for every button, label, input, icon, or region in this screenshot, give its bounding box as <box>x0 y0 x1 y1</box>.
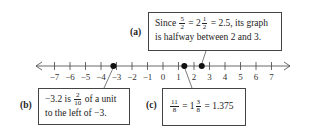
svg-text:−2: −2 <box>127 72 137 82</box>
svg-text:1: 1 <box>176 72 181 82</box>
callout-a-label: (a) <box>130 27 141 37</box>
callout-b: −3.2 is 210 of a unit to the left of −3. <box>38 88 130 125</box>
svg-text:4: 4 <box>223 72 228 82</box>
svg-text:7: 7 <box>269 72 274 82</box>
svg-text:−4: −4 <box>96 72 106 82</box>
svg-text:−6: −6 <box>65 72 75 82</box>
svg-text:3: 3 <box>207 72 212 82</box>
svg-text:−5: −5 <box>81 72 91 82</box>
tick-marks: −7−6−5−4−3−2−101234567 <box>50 62 275 82</box>
svg-text:6: 6 <box>254 72 259 82</box>
callout-b-label: (b) <box>20 100 32 110</box>
callout-c: 118 = 138 = 1.375 <box>162 88 246 126</box>
svg-text:5: 5 <box>238 72 243 82</box>
svg-text:−7: −7 <box>50 72 60 82</box>
callout-a: Since 52 = 212 = 2.5, its graph is halfw… <box>148 12 282 51</box>
svg-text:0: 0 <box>161 72 166 82</box>
svg-text:−1: −1 <box>143 72 153 82</box>
svg-text:2: 2 <box>192 72 197 82</box>
svg-text:−3: −3 <box>112 72 122 82</box>
callout-c-label: (c) <box>146 100 157 110</box>
